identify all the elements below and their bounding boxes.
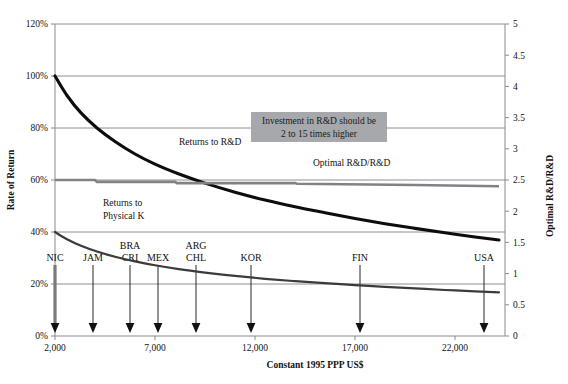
country-marker-arg-chl: ARGCHL: [185, 240, 206, 333]
y-axis-title-right: Optimal R&D/R&D: [545, 155, 555, 237]
marker-arrowhead: [126, 323, 135, 333]
country-marker-fin: FIN: [352, 252, 368, 333]
country-label-text: NIC: [46, 252, 64, 263]
series-label-returns-to-physical-k: Physical K: [103, 211, 145, 221]
country-label-text: USA: [474, 252, 495, 263]
country-label-text: MEX: [147, 252, 170, 263]
rate-of-return-chart: 0%20%40%60%80%100%120%Rate of Return00.5…: [0, 0, 568, 384]
y-axis-title-left: Rate of Return: [6, 149, 16, 210]
chart-canvas: 0%20%40%60%80%100%120%Rate of Return00.5…: [0, 0, 568, 384]
y-ticklabel-right: 1.5: [513, 238, 525, 248]
series-label-optimal-r-d-r-d: Optimal R&D/R&D: [313, 158, 390, 168]
y-ticklabel-right: 0: [513, 331, 518, 341]
marker-arrowhead: [51, 323, 60, 333]
country-label-text: ARG: [185, 240, 206, 251]
marker-arrowhead: [356, 323, 365, 333]
y-ticklabel-right: 3.5: [513, 113, 525, 123]
marker-arrowhead: [89, 323, 98, 333]
x-ticklabel: 2,000: [44, 343, 66, 353]
marker-arrowhead: [247, 323, 256, 333]
y-ticklabel-left: 20%: [31, 279, 49, 289]
country-label-text: FIN: [352, 252, 368, 263]
callout-line: Investment in R&D should be: [262, 116, 376, 126]
marker-arrowhead: [154, 323, 163, 333]
country-marker-bra-cri: BRACRI: [120, 240, 141, 333]
y-ticklabel-right: 2: [513, 207, 518, 217]
y-ticklabel-left: 40%: [31, 227, 49, 237]
country-label-text: JAM: [83, 252, 103, 263]
x-axis-title: Constant 1995 PPP US$: [267, 360, 364, 370]
callout-line: 2 to 15 times higher: [281, 129, 358, 139]
country-label-text: BRA: [120, 240, 141, 251]
country-label-text: KOR: [240, 252, 261, 263]
marker-arrowhead: [192, 323, 201, 333]
y-ticklabel-right: 0.5: [513, 300, 525, 310]
y-ticklabel-left: 80%: [31, 123, 49, 133]
series-label-returns-to-r-d: Returns to R&D: [179, 137, 241, 147]
marker-arrowhead: [480, 323, 489, 333]
series-label-returns-to-physical-k: Returns to: [103, 198, 143, 208]
x-ticklabel: 12,000: [242, 343, 268, 353]
x-ticklabel: 7,000: [144, 343, 166, 353]
y-ticklabel-left: 0%: [35, 331, 48, 341]
series-optimal-r-d-r-d: [55, 180, 499, 186]
y-ticklabel-right: 1: [513, 269, 518, 279]
y-ticklabel-left: 120%: [26, 19, 48, 29]
investment-callout: Investment in R&D should be2 to 15 times…: [251, 112, 387, 142]
x-ticklabel: 22,000: [442, 343, 468, 353]
country-marker-jam: JAM: [83, 252, 103, 333]
y-ticklabel-right: 5: [513, 19, 518, 29]
x-ticklabel: 17,000: [342, 343, 368, 353]
y-ticklabel-left: 100%: [26, 71, 48, 81]
y-ticklabel-right: 4.5: [513, 51, 525, 61]
country-label-text: CHL: [186, 252, 206, 263]
y-ticklabel-left: 60%: [31, 175, 49, 185]
country-marker-kor: KOR: [240, 252, 261, 333]
y-ticklabel-right: 4: [513, 82, 518, 92]
y-ticklabel-right: 2.5: [513, 175, 525, 185]
y-ticklabel-right: 3: [513, 144, 518, 154]
